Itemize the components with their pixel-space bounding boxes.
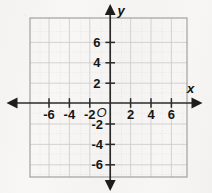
x-axis-label: x (186, 81, 195, 96)
scanned-page-background: -6 -4 -2 2 4 6 O 6 4 2 -2 -4 -6 y x (0, 0, 212, 193)
x-tick-label-neg6: -6 (43, 107, 55, 122)
x-tick-label-pos2: 2 (127, 107, 134, 122)
y-tick-label-neg6: -6 (91, 157, 103, 172)
y-axis-label: y (117, 3, 126, 18)
x-axis-right-arrow-icon (192, 98, 203, 109)
y-tick-label-neg4: -4 (91, 137, 103, 152)
y-tick-label-pos2: 2 (93, 76, 100, 91)
y-tick-label-pos4: 4 (93, 55, 101, 70)
y-tick-label-pos6: 6 (93, 35, 100, 50)
x-tick-label-neg4: -4 (64, 107, 76, 122)
y-tick-label-neg2: -2 (91, 117, 103, 132)
x-tick-label-pos4: 4 (147, 107, 155, 122)
x-tick-label-pos6: 6 (168, 107, 175, 122)
y-axis-up-arrow-icon (105, 4, 116, 15)
y-axis-down-arrow-icon (105, 180, 116, 191)
x-axis-left-arrow-icon (7, 98, 18, 109)
coordinate-plane-figure: -6 -4 -2 2 4 6 O 6 4 2 -2 -4 -6 y x (0, 0, 212, 193)
